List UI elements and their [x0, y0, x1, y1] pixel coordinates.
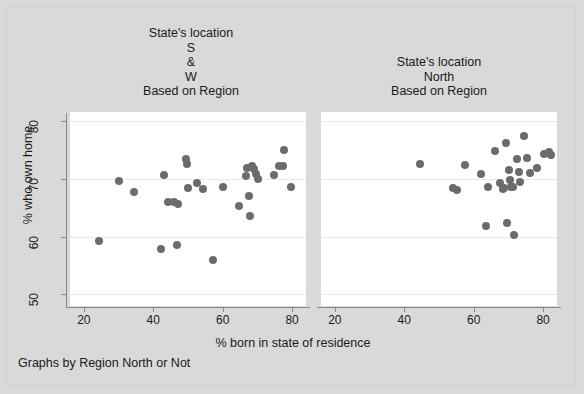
scatter-point — [130, 188, 138, 196]
scatter-point — [510, 231, 518, 239]
x-tick-label: 60 — [459, 313, 489, 327]
x-tick-label: 40 — [389, 313, 419, 327]
scatter-point — [287, 183, 295, 191]
x-tick — [335, 307, 336, 312]
scatter-point — [461, 161, 469, 169]
x-axis-left — [66, 307, 310, 308]
scatter-point — [484, 183, 492, 191]
figure-canvas: State's location S & W Based on Region S… — [0, 0, 584, 394]
scatter-point — [526, 169, 534, 177]
scatter-point — [246, 212, 254, 220]
scatter-point — [505, 166, 513, 174]
y-axis-left — [66, 113, 67, 307]
x-tick — [84, 307, 85, 312]
scatter-point — [547, 151, 555, 159]
scatter-point — [453, 186, 461, 194]
gridline — [70, 179, 306, 180]
y-axis-label: % who own home — [21, 85, 35, 265]
scatter-point — [491, 147, 499, 155]
scatter-point — [509, 183, 517, 191]
gridline — [70, 121, 306, 122]
scatter-point — [280, 146, 288, 154]
x-axis-right — [317, 307, 561, 308]
x-tick-label: 20 — [320, 313, 350, 327]
scatter-point — [235, 202, 243, 210]
gridline — [321, 294, 557, 295]
gridline — [321, 121, 557, 122]
scatter-point — [516, 178, 524, 186]
y-tick — [61, 179, 66, 180]
x-tick — [153, 307, 154, 312]
scatter-point — [502, 139, 510, 147]
scatter-point — [184, 184, 192, 192]
scatter-point — [95, 237, 103, 245]
x-tick — [474, 307, 475, 312]
scatter-point — [503, 219, 511, 227]
scatter-point — [173, 241, 181, 249]
y-tick — [61, 121, 66, 122]
x-tick-label: 40 — [138, 313, 168, 327]
x-axis-label: % born in state of residence — [188, 336, 398, 350]
scatter-point — [115, 177, 123, 185]
scatter-point — [242, 172, 250, 180]
scatter-point — [533, 164, 541, 172]
scatter-point — [174, 200, 182, 208]
scatter-point — [515, 168, 523, 176]
panel-title-south-west: State's location S & W Based on Region — [76, 26, 306, 99]
scatter-point — [245, 192, 253, 200]
scatter-point — [183, 160, 191, 168]
scatter-point — [279, 162, 287, 170]
x-tick — [292, 307, 293, 312]
scatter-point — [520, 132, 528, 140]
x-tick-label: 80 — [277, 313, 307, 327]
scatter-point — [157, 245, 165, 253]
figure-footnote: Graphs by Region North or Not — [18, 356, 190, 370]
scatter-point — [416, 160, 424, 168]
x-tick — [404, 307, 405, 312]
scatter-point — [477, 170, 485, 178]
gridline — [321, 237, 557, 238]
panel-title-north: State's location North Based on Region — [324, 55, 554, 99]
x-tick-label: 60 — [208, 313, 238, 327]
scatter-point — [209, 256, 217, 264]
x-tick — [543, 307, 544, 312]
scatter-plot-panel-south-west — [70, 112, 306, 306]
scatter-point — [513, 155, 521, 163]
scatter-point — [523, 154, 531, 162]
x-tick — [223, 307, 224, 312]
y-tick-label: 50 — [27, 293, 41, 319]
scatter-point — [254, 175, 262, 183]
scatter-plot-panel-north — [321, 112, 557, 306]
scatter-point — [199, 185, 207, 193]
scatter-point — [219, 183, 227, 191]
x-tick-label: 20 — [69, 313, 99, 327]
x-tick-label: 80 — [528, 313, 558, 327]
gridline — [70, 294, 306, 295]
y-tick — [61, 294, 66, 295]
y-tick — [61, 237, 66, 238]
gridline — [70, 237, 306, 238]
scatter-point — [482, 222, 490, 230]
